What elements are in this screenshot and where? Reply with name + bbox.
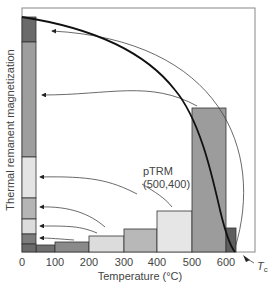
bar-300-400 xyxy=(124,229,157,252)
bar-400-500 xyxy=(157,211,192,252)
bar-100-200 xyxy=(55,242,89,252)
seg-200 xyxy=(22,219,36,234)
tick-400: 400 xyxy=(148,256,166,268)
trm-chart: pTRM (500,400) 0 100 200 300 400 500 600… xyxy=(0,0,273,291)
seg-500 xyxy=(22,42,36,157)
x-tick-labels: 0 100 200 300 400 500 600 xyxy=(19,256,235,268)
tick-200: 200 xyxy=(80,256,98,268)
seg-600 xyxy=(22,17,36,42)
bar-40-100 xyxy=(36,245,55,252)
bar-200-300 xyxy=(89,236,124,252)
seg-400 xyxy=(22,157,36,198)
tick-600: 600 xyxy=(217,256,235,268)
seg-300 xyxy=(22,198,36,219)
stacked-total-bar xyxy=(22,17,36,252)
tc-label: Tc xyxy=(257,260,268,274)
seg-0 xyxy=(22,244,36,252)
seg-100 xyxy=(22,234,36,244)
bar-600-630 xyxy=(226,228,236,252)
tick-0: 0 xyxy=(19,256,25,268)
tick-300: 300 xyxy=(115,256,133,268)
x-axis-label: Temperature (°C) xyxy=(98,270,182,282)
ptrm-range-label: (500,400) xyxy=(143,178,190,190)
tick-100: 100 xyxy=(46,256,64,268)
y-axis-label: Thermal remanent magnetization xyxy=(4,49,16,210)
ptrm-label: pTRM xyxy=(143,165,173,177)
tick-500: 500 xyxy=(183,256,201,268)
tc-sub: c xyxy=(264,265,268,274)
